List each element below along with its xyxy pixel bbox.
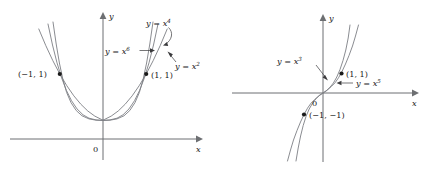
point-label-one-one: (1, 1) [151,70,173,80]
point-marker-neg-one-neg-one [302,112,306,116]
power-functions-figure: y x 0 y = x4 y = x6 y = x2 (−1, 1) (1, 1… [0,0,439,169]
label-y-equals-x-squared: y = x2 [174,61,200,71]
point-marker-one-one [339,71,343,75]
point-label-neg-one-neg-one: (−1, −1) [309,110,345,120]
point-marker-one-one [144,72,148,76]
y-axis-label: y [108,11,114,21]
point-label-one-one: (1, 1) [346,69,368,79]
label-y-equals-x-sixth: y = x6 [104,46,130,56]
y-axis-arrowhead [100,12,107,19]
point-label-neg-one-one: (−1, 1) [18,69,47,79]
origin-label: 0 [312,98,317,108]
panel-even-powers: y x 0 y = x4 y = x6 y = x2 (−1, 1) (1, 1… [0,0,220,169]
origin-label: 0 [93,144,98,154]
x-axis-arrowhead [412,90,419,97]
y-axis-label: y [328,13,334,23]
leader-x-fourth [165,28,172,45]
x-axis-label: x [196,144,201,154]
x-axis-arrowhead [196,136,203,143]
even-powers-plot: y x 0 y = x4 y = x6 y = x2 (−1, 1) (1, 1… [0,0,220,169]
leader-head-x-fifth [337,81,342,85]
y-axis-arrowhead [320,14,327,21]
x-axis-label: x [412,98,417,108]
label-y-equals-x-fourth: y = x4 [145,18,171,28]
point-marker-neg-one-one [58,72,62,76]
label-y-equals-x-cubed: y = x3 [276,56,302,66]
odd-powers-plot: y x 0 y = x3 y = x5 (1, 1) (−1, −1) [220,0,439,169]
panel-odd-powers: y x 0 y = x3 y = x5 (1, 1) (−1, −1) [220,0,439,169]
leader-head-x-squared [168,52,173,58]
label-y-equals-x-fifth: y = x5 [355,78,381,88]
